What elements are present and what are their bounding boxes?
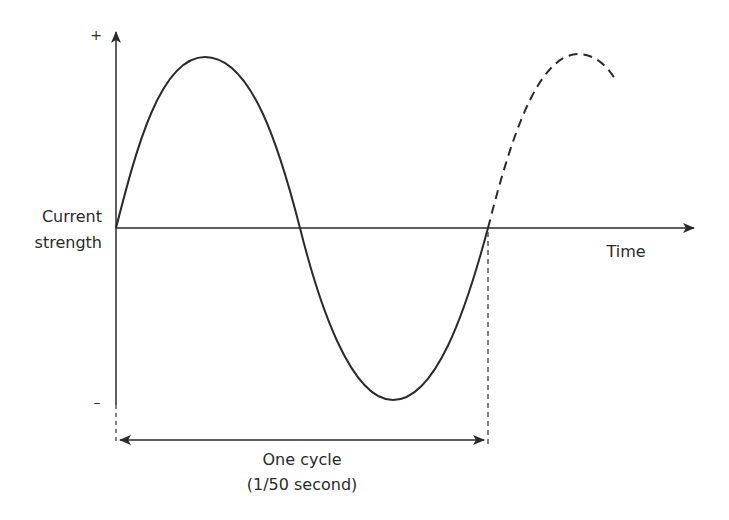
positive-mark: +	[90, 27, 102, 43]
cycle-sublabel: (1/50 second)	[247, 475, 358, 494]
x-axis-label: Time	[605, 242, 645, 261]
ac-waveform-diagram: + – Current strength Time One cycle (1/5…	[0, 0, 729, 520]
y-axis-label-line1: Current	[42, 207, 102, 226]
y-axis-label-line2: strength	[35, 233, 102, 252]
cycle-label: One cycle	[262, 450, 341, 469]
negative-mark: –	[94, 394, 101, 410]
sine-wave-continuation	[488, 54, 615, 228]
